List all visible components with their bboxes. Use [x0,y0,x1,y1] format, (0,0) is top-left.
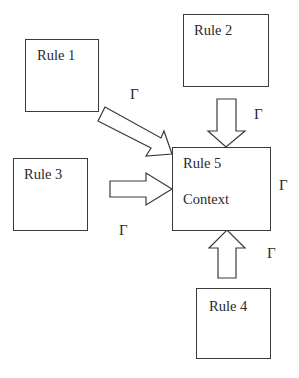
context-label: Context [183,191,229,208]
gamma-label-rule3: Γ [119,222,128,239]
rule4-label: Rule 4 [209,298,247,315]
gamma-label-context: Γ [279,177,288,194]
rule5-context-box: Rule 5 Context [172,147,271,231]
rule5-label: Rule 5 [183,155,221,172]
arrow-rule2-to-rule5 [208,99,245,147]
rule3-box: Rule 3 [13,158,88,231]
rule3-label: Rule 3 [24,166,62,183]
rule1-box: Rule 1 [25,39,99,112]
gamma-label-rule4: Γ [267,245,276,262]
arrow-rule4-to-rule5 [209,230,245,278]
arrow-rule3-to-rule5 [110,173,172,205]
rule4-box: Rule 4 [196,288,271,359]
rule2-box: Rule 2 [183,14,269,87]
gamma-label-rule2: Γ [254,106,263,123]
rule1-label: Rule 1 [37,47,75,64]
arrow-rule1-to-rule5 [98,107,172,156]
rule2-label: Rule 2 [194,22,232,39]
gamma-label-rule1: Γ [130,86,139,103]
